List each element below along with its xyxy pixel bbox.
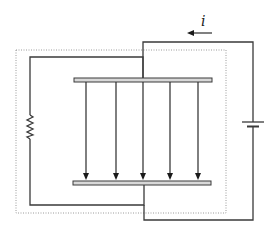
electric-field-lines [83, 82, 201, 180]
arrow-down-icon [167, 173, 173, 180]
current-label: i [201, 13, 205, 29]
capacitor-top-plate [74, 78, 212, 82]
dotted-boundary [16, 50, 226, 213]
arrow-down-icon [140, 173, 146, 180]
circuit-diagram: i [0, 0, 276, 232]
left-wire-bottom [30, 139, 144, 205]
arrow-down-icon [113, 173, 119, 180]
arrow-left-icon [187, 30, 194, 36]
resistor-icon [27, 115, 33, 139]
capacitor-bottom-plate [73, 181, 211, 185]
arrow-down-icon [83, 173, 89, 180]
arrow-down-icon [195, 173, 201, 180]
